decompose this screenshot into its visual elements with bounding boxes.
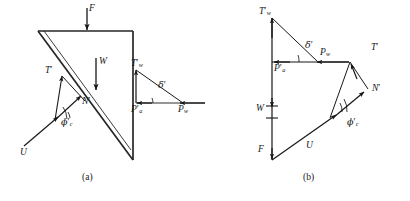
wall-force-triangle (136, 70, 205, 103)
caption-panel-b: (b) (303, 172, 314, 182)
label-phi-c-prime-b: ϕ′c (347, 117, 359, 128)
label-Tw-prime-a: T′w (131, 59, 143, 69)
wedge-force-triangle (55, 76, 85, 120)
label-T-prime-b: T′ (371, 43, 378, 53)
force-arrow-U-a (24, 117, 58, 146)
label-delta-prime-a: δ′ (158, 80, 166, 91)
angle-arc-phi-c-prime-b2 (344, 99, 347, 112)
label-W-a: W (99, 57, 107, 67)
label-phi-c-prime-a: ϕ′c (61, 117, 73, 128)
caption-panel-a: (a) (82, 172, 93, 182)
label-Pa-prime-a: P′a (131, 105, 142, 115)
label-N-prime-a: N′ (82, 97, 90, 107)
label-F-a: F (89, 4, 95, 14)
label-delta-prime-b: δ′ (305, 40, 313, 51)
force-arrow-U-b (272, 115, 336, 160)
label-Pw-a: Pw (178, 105, 188, 115)
label-Pw-b: Pw (320, 48, 330, 58)
label-T-prime-a: T′ (45, 66, 52, 76)
label-N-prime-b: N′ (372, 84, 380, 94)
label-Tw-prime-b: T′w (259, 7, 271, 17)
force-arrow-N-prime-b (334, 92, 364, 117)
label-U-b: U (306, 141, 313, 151)
polygon-side-T-N-b (350, 62, 368, 89)
label-F-b: F (258, 145, 264, 155)
label-W-b: W (256, 104, 264, 114)
figure-canvas (0, 0, 410, 201)
force-arrow-T-prime-a (55, 76, 62, 120)
angle-arc-delta-prime-b (298, 55, 299, 62)
failure-plane-inner (44, 31, 131, 150)
label-Pa-prime-b: P′a (274, 64, 285, 74)
panel-b-force-polygon (266, 18, 368, 160)
angle-arc-delta-prime-a (152, 98, 153, 103)
label-U-a: U (20, 148, 27, 158)
